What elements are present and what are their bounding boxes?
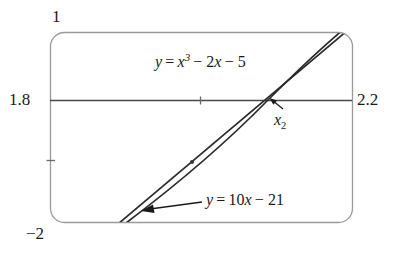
cubic-var: x	[178, 53, 185, 70]
cubic-var2: x	[214, 53, 221, 70]
axis-label-left: 1.8	[9, 91, 30, 108]
equation-line-label: y = 10x − 21	[206, 192, 284, 208]
cubic-power: 3	[185, 51, 190, 63]
axis-label-bottom-left: −2	[26, 225, 44, 242]
cubic-term2: − 2	[193, 53, 214, 70]
line-lhs: y	[206, 191, 213, 208]
line-equals: =	[216, 191, 225, 208]
figure-background	[0, 0, 405, 254]
x2-subscript: 2	[281, 120, 286, 131]
cursor-point-marker	[190, 160, 194, 164]
intersection-label-x2: x2	[274, 112, 286, 132]
line-coef: 10	[229, 191, 245, 208]
axis-label-right: 2.2	[357, 91, 378, 108]
line-var: x	[245, 191, 252, 208]
equation-cubic-label: y = x3 − 2x − 5	[155, 52, 246, 70]
graph-figure	[0, 0, 405, 254]
cubic-equals: =	[165, 53, 174, 70]
cubic-term3: − 5	[225, 53, 246, 70]
line-const: − 21	[255, 191, 284, 208]
axis-label-top-left: 1	[52, 8, 61, 25]
